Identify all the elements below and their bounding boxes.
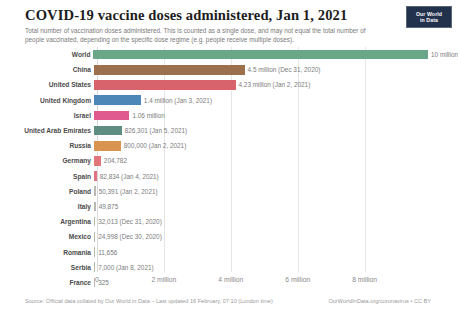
bar-value-label: 50,391 (Jan 2, 2021): [96, 188, 158, 195]
bar-row[interactable]: World10 million: [0, 47, 458, 62]
category-label: Romania: [0, 249, 94, 256]
bar-value-label: 11,656: [95, 249, 117, 256]
bar-container: 24,998 (Dec 30, 2020): [94, 229, 458, 244]
bar-value-label: 10 million: [428, 51, 458, 58]
category-label: Mexico: [0, 233, 94, 240]
logo-line-2: in Data: [420, 17, 438, 23]
bar-container: 1.06 million: [94, 108, 458, 123]
bar[interactable]: [94, 95, 141, 105]
category-label: United Kingdom: [0, 97, 94, 104]
bar-row[interactable]: Germany204,782: [0, 153, 458, 168]
bar-rows: World10 millionChina4.5 million (Dec 31,…: [0, 47, 458, 290]
category-label: World: [0, 51, 93, 58]
bar[interactable]: [93, 50, 428, 60]
bar[interactable]: [94, 65, 245, 75]
category-label: Russia: [0, 142, 94, 149]
chart-subtitle: Total number of vaccination doses admini…: [25, 27, 385, 44]
bar-value-label: 826,301 (Jan 5, 2021): [122, 127, 188, 134]
bar-value-label: 1.4 million (Jan 3, 2021): [141, 97, 212, 104]
bar-row[interactable]: Russia800,000 (Jan 2, 2021): [0, 138, 458, 153]
bar-row[interactable]: Spain82,834 (Jan 4, 2021): [0, 169, 458, 184]
plot-area: World10 millionChina4.5 million (Dec 31,…: [0, 47, 458, 272]
x-axis-tick: 0: [95, 276, 99, 283]
bar-container: 49,875: [94, 199, 458, 214]
x-axis-tick: 4 million: [218, 276, 243, 283]
bar-row[interactable]: Romania11,656: [0, 244, 458, 259]
bar-container: 10 million: [93, 47, 458, 62]
bar-value-label: 4.5 million (Dec 31, 2020): [245, 66, 321, 73]
bar-row[interactable]: Italy49,875: [0, 199, 458, 214]
bar-row[interactable]: Argentina32,013 (Dec 31, 2020): [0, 214, 458, 229]
bar-row[interactable]: Mexico24,998 (Dec 30, 2020): [0, 229, 458, 244]
bar-container: 82,834 (Jan 4, 2021): [94, 169, 458, 184]
bar-value-label: 7,000 (Jan 8, 2021): [95, 264, 153, 271]
bar-row[interactable]: United States4.23 million (Jan 2, 2021): [0, 77, 458, 92]
bar-container: 204,782: [94, 153, 458, 168]
bar-container: 32,013 (Dec 31, 2020): [94, 214, 458, 229]
bar-container: 4.5 million (Dec 31, 2020): [94, 62, 458, 77]
bar-value-label: 49,875: [96, 203, 119, 210]
chart-title: COVID-19 vaccine doses administered, Jan…: [25, 6, 393, 24]
bar[interactable]: [94, 80, 236, 90]
bar-container: 50,391 (Jan 2, 2021): [94, 184, 458, 199]
bar-row[interactable]: United Arab Emirates826,301 (Jan 5, 2021…: [0, 123, 458, 138]
bar-row[interactable]: Israel1.06 million: [0, 108, 458, 123]
bar-container: 1.4 million (Jan 3, 2021): [94, 93, 458, 108]
category-label: Germany: [0, 157, 94, 164]
bar-container: 800,000 (Jan 2, 2021): [94, 138, 458, 153]
credit-note: OurWorldInData.org/coronavirus • CC BY: [328, 298, 445, 304]
bar-container: 4.23 million (Jan 2, 2021): [94, 77, 458, 92]
source-note: Source: Official data collated by Our Wo…: [25, 298, 273, 304]
bar-row[interactable]: Poland50,391 (Jan 2, 2021): [0, 184, 458, 199]
bar-value-label: 204,782: [101, 157, 127, 164]
chart-footer: Source: Official data collated by Our Wo…: [25, 298, 445, 304]
category-label: France: [0, 279, 94, 286]
x-axis: 02 million4 million6 million8 million: [97, 276, 455, 288]
bar-value-label: 24,998 (Dec 30, 2020): [95, 233, 162, 240]
x-axis-tick: 2 million: [151, 276, 176, 283]
chart-canvas: COVID-19 vaccine doses administered, Jan…: [0, 0, 458, 317]
bar[interactable]: [94, 141, 121, 151]
bar-value-label: 800,000 (Jan 2, 2021): [121, 142, 187, 149]
our-world-in-data-logo[interactable]: Our World in Data: [406, 6, 452, 28]
bar-row[interactable]: Serbia7,000 (Jan 8, 2021): [0, 260, 458, 275]
category-label: Israel: [0, 112, 94, 119]
category-label: Spain: [0, 173, 94, 180]
bar-value-label: 32,013 (Dec 31, 2020): [95, 218, 162, 225]
bar[interactable]: [94, 156, 101, 166]
bar-row[interactable]: United Kingdom1.4 million (Jan 3, 2021): [0, 93, 458, 108]
bar-container: 7,000 (Jan 8, 2021): [94, 260, 458, 275]
category-label: United States: [0, 81, 94, 88]
category-label: China: [0, 66, 94, 73]
category-label: Serbia: [0, 264, 94, 271]
category-label: Argentina: [0, 218, 94, 225]
x-axis-tick: 6 million: [285, 276, 310, 283]
bar[interactable]: [94, 111, 129, 121]
chart-header: COVID-19 vaccine doses administered, Jan…: [25, 6, 393, 44]
category-label: Poland: [0, 188, 94, 195]
bar-value-label: 1.06 million: [129, 112, 164, 119]
bar-container: 826,301 (Jan 5, 2021): [94, 123, 458, 138]
category-label: United Arab Emirates: [0, 127, 94, 134]
category-label: Italy: [0, 203, 94, 210]
bar-container: 11,656: [94, 244, 458, 259]
bar[interactable]: [94, 126, 122, 136]
x-axis-tick: 8 million: [352, 276, 377, 283]
bar-value-label: 4.23 million (Jan 2, 2021): [236, 81, 311, 88]
bar-row[interactable]: China4.5 million (Dec 31, 2020): [0, 62, 458, 77]
bar-value-label: 82,834 (Jan 4, 2021): [97, 173, 159, 180]
